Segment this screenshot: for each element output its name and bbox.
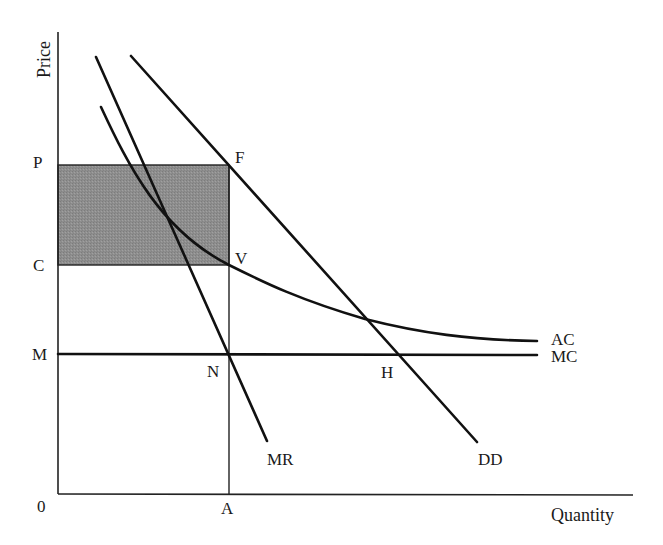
point-label-n: N bbox=[207, 362, 219, 381]
origin-label: 0 bbox=[37, 497, 46, 516]
point-label-v: V bbox=[235, 249, 248, 268]
monopoly-diagram: Price Quantity 0 P C M A F V N H AC MC M… bbox=[0, 0, 663, 545]
mc-curve bbox=[58, 354, 537, 355]
curve-label-dd: DD bbox=[478, 450, 503, 469]
x-axis-label: Quantity bbox=[551, 505, 614, 525]
price-label-p: P bbox=[33, 153, 42, 172]
y-axis-label: Price bbox=[34, 41, 54, 78]
point-label-f: F bbox=[235, 148, 244, 167]
price-label-m: M bbox=[32, 345, 47, 364]
x-axis bbox=[58, 494, 633, 495]
point-label-h: H bbox=[381, 363, 393, 382]
curve-label-mr: MR bbox=[267, 450, 294, 469]
quantity-label-a: A bbox=[221, 499, 234, 518]
curve-label-mc: MC bbox=[551, 347, 577, 366]
price-label-c: C bbox=[33, 256, 44, 275]
